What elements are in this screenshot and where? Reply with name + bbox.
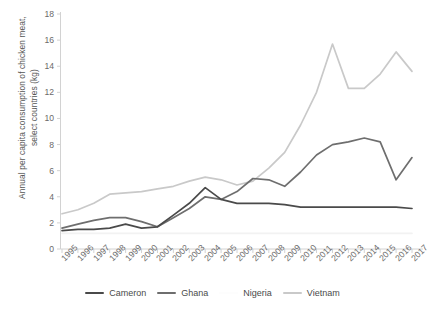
legend-swatch-cameron — [85, 292, 104, 294]
legend-item-vietnam[interactable]: Vietnam — [283, 288, 340, 298]
legend-swatch-nigeria — [219, 292, 238, 294]
legend-label-ghana: Ghana — [181, 288, 208, 298]
legend-label-cameron: Cameron — [109, 288, 146, 298]
legend-item-nigeria[interactable]: Nigeria — [219, 288, 272, 298]
legend-label-vietnam: Vietnam — [307, 288, 340, 298]
legend-label-nigeria: Nigeria — [243, 288, 272, 298]
legend-item-ghana[interactable]: Ghana — [157, 288, 208, 298]
legend-swatch-vietnam — [283, 292, 302, 294]
chart-legend: CameronGhanaNigeriaVietnam — [0, 288, 425, 298]
series-line-ghana — [62, 138, 412, 228]
legend-item-cameron[interactable]: Cameron — [85, 288, 146, 298]
series-line-vietnam — [62, 44, 412, 214]
legend-swatch-ghana — [157, 292, 176, 294]
